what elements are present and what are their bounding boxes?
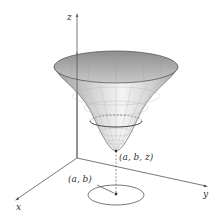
surface-mesh — [70, 79, 162, 151]
point-ab-dot — [115, 193, 118, 196]
z-axis-label: z — [67, 13, 72, 22]
y-axis-label: y — [203, 190, 208, 199]
point-abz-dot — [115, 150, 118, 153]
y-axis — [77, 158, 206, 186]
y-axis-arrow-icon — [204, 185, 209, 188]
label-leader-line — [97, 185, 114, 193]
point-abz-label: (a, b, z) — [119, 153, 153, 162]
x-axis-label: x — [16, 203, 21, 212]
z-axis-arrow-icon — [76, 13, 78, 17]
point-ab-label: (a, b) — [68, 175, 92, 184]
surface-diagram — [0, 0, 217, 218]
